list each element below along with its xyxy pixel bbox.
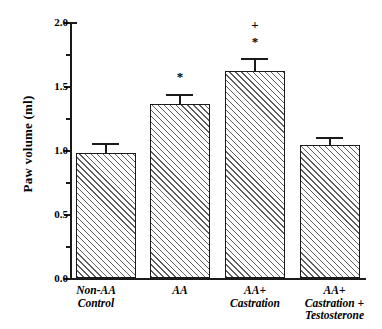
- plot-area: 2.0 1.5 1.0 0.5 0.0 * + *: [70, 22, 366, 278]
- y-tick-label-2-0: 2.0: [34, 17, 68, 28]
- x-axis-label-aa-castration-line1: AA+: [215, 284, 295, 297]
- x-axis-label-aa-castration: AA+ Castration: [215, 284, 295, 309]
- x-axis-label-aa-castration-testosterone-line3: Testosterone: [287, 309, 382, 322]
- y-tick-label-1-0: 1.0: [34, 145, 68, 156]
- bar-chart: Paw volume (ml) 2.0 1.5 1.0 0.5 0.0 *: [0, 0, 382, 329]
- y-axis-top-cap: [71, 22, 77, 24]
- y-tick-label-0-5: 0.5: [34, 209, 68, 220]
- significance-mark-aa-castration-plus: +: [243, 18, 267, 31]
- error-bar-stem-aa: [179, 95, 181, 104]
- bar-aa-castration[interactable]: [225, 71, 285, 278]
- x-axis-label-aa-castration-line2: Castration: [215, 297, 295, 310]
- bar-aa[interactable]: [150, 104, 210, 278]
- error-bar-cap-non-aa-control: [92, 143, 119, 145]
- x-axis-label-aa-castration-testosterone-line2: Castration +: [287, 297, 382, 310]
- error-bar-stem-aa-castration: [254, 59, 256, 71]
- y-tick-label-0-0: 0.0: [34, 273, 68, 284]
- x-axis-label-non-aa-control-line2: Control: [56, 297, 136, 310]
- x-axis-label-aa-castration-testosterone-line1: AA+: [287, 284, 382, 297]
- x-axis-label-aa-line1: AA: [140, 284, 220, 297]
- y-tick-minor-1-75: [66, 54, 71, 56]
- error-bar-stem-non-aa-control: [105, 144, 107, 153]
- bar-non-aa-control[interactable]: [76, 153, 136, 278]
- y-tick-minor-1-25: [66, 118, 71, 120]
- error-bar-cap-aa-castration: [241, 58, 268, 60]
- y-tick-label-1-5: 1.5: [34, 81, 68, 92]
- x-axis-label-aa: AA: [140, 284, 220, 297]
- error-bar-stem-aa-castration-testosterone: [329, 138, 331, 145]
- significance-mark-aa-castration-asterisk: *: [243, 35, 267, 48]
- bar-aa-castration-testosterone[interactable]: [300, 145, 360, 278]
- y-tick-minor-0-25: [66, 246, 71, 248]
- x-axis-label-aa-castration-testosterone: AA+ Castration + Testosterone: [287, 284, 382, 322]
- x-axis-label-non-aa-control-line1: Non-AA: [56, 284, 136, 297]
- error-bar-cap-aa: [166, 94, 193, 96]
- x-axis-line: [70, 278, 366, 280]
- error-bar-cap-aa-castration-testosterone: [316, 137, 343, 139]
- x-axis-label-non-aa-control: Non-AA Control: [56, 284, 136, 309]
- y-tick-minor-0-75: [66, 182, 71, 184]
- significance-mark-aa-asterisk: *: [168, 70, 192, 83]
